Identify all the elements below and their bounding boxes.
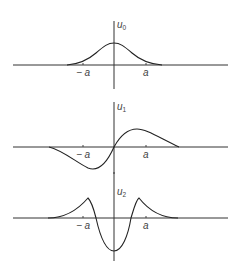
label-pos-a: a <box>143 67 149 78</box>
wavefunction-diagram: − a a u0 − a a u1 − a a u2 <box>0 0 239 272</box>
panel-u2: − a a u2 <box>13 172 228 261</box>
panel-u0: − a a u0 <box>13 19 228 89</box>
curve-u2 <box>48 198 178 251</box>
axis-label-u0: u0 <box>117 19 127 31</box>
label-pos-a: a <box>143 220 149 231</box>
label-neg-a: − a <box>76 149 91 160</box>
label-neg-a: − a <box>76 220 91 231</box>
label-neg-a: − a <box>76 67 91 78</box>
panel-u1: − a a u1 <box>13 101 228 174</box>
label-pos-a: a <box>143 149 149 160</box>
axis-label-u1: u1 <box>117 101 127 113</box>
axis-label-u2: u2 <box>117 186 127 198</box>
